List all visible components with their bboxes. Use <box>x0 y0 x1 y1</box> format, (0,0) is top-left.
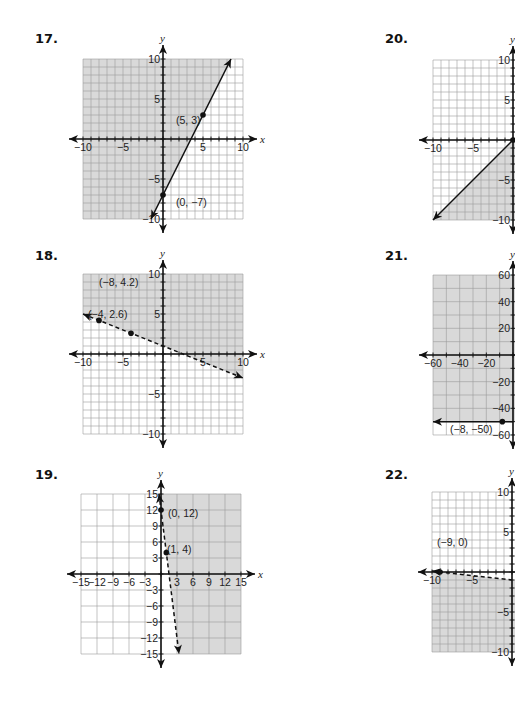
x-tick-label: 10 <box>237 356 249 368</box>
point-label: (−9, 0) <box>437 536 468 548</box>
point-label: (−8, 4.2) <box>99 276 138 288</box>
y-tick-label: 20 <box>498 322 510 334</box>
point-label: (0, 12) <box>168 507 198 519</box>
x-tick-label: −10 <box>423 574 441 586</box>
y-tick-label: −40 <box>492 402 510 414</box>
x-tick-label: 5 <box>200 141 206 153</box>
y-tick-label: 5 <box>503 526 509 538</box>
data-point <box>160 192 166 198</box>
y-tick-label: −5 <box>497 606 509 618</box>
graph-19: yx−15−12−9−6−336912151512963−3−6−9−12−15 <box>67 467 263 668</box>
graph-21: y−60−40−20604020−20−40−60 <box>0 0 515 449</box>
x-tick-label: −6 <box>123 576 135 588</box>
y-axis-label: y <box>509 248 515 260</box>
y-tick-label: 5 <box>154 308 160 320</box>
y-axis-label: y <box>157 467 163 479</box>
y-tick-label: −12 <box>140 632 158 644</box>
x-tick-label: −20 <box>477 357 495 369</box>
y-tick-label: 12 <box>146 504 158 516</box>
x-tick-label: 10 <box>237 141 249 153</box>
y-tick-label: 15 <box>146 488 158 500</box>
point-label: (5, 3) <box>176 114 201 126</box>
y-tick-label: 5 <box>154 93 160 105</box>
graphs-canvas: yx−10−5510105−5−10yx−10−5510105−5−10yx−1… <box>0 0 515 702</box>
y-tick-label: 5 <box>504 94 510 106</box>
y-axis-label: y <box>508 465 514 477</box>
data-point <box>158 507 164 513</box>
x-tick-label: −60 <box>424 357 442 369</box>
x-tick-label: −10 <box>424 142 442 154</box>
x-tick-label: 15 <box>235 576 247 588</box>
y-axis-label: y <box>509 33 515 45</box>
y-tick-label: −20 <box>492 376 510 388</box>
data-point <box>437 569 443 575</box>
y-tick-label: 10 <box>498 54 510 66</box>
y-tick-label: −15 <box>140 648 158 660</box>
data-point <box>500 419 506 425</box>
y-tick-label: 10 <box>148 268 160 280</box>
x-tick-label: −5 <box>467 142 479 154</box>
y-tick-label: 6 <box>152 536 158 548</box>
point-label: (0, −7) <box>176 196 207 208</box>
x-tick-label: −5 <box>117 356 129 368</box>
x-tick-label: −5 <box>117 141 129 153</box>
y-tick-label: 60 <box>498 269 510 281</box>
y-axis-label: y <box>159 32 165 44</box>
y-tick-label: −9 <box>146 616 158 628</box>
data-point <box>128 330 134 336</box>
x-axis-label: x <box>259 133 265 145</box>
point-label: (−4, 2.6) <box>88 308 127 320</box>
y-tick-label: 3 <box>152 552 158 564</box>
x-tick-label: 12 <box>219 576 231 588</box>
point-label: (1, 4) <box>167 543 192 555</box>
y-tick-label: −10 <box>142 428 160 440</box>
x-tick-label: 9 <box>206 576 212 588</box>
data-point <box>200 112 206 118</box>
y-tick-label: −5 <box>148 173 160 185</box>
y-tick-label: −5 <box>148 388 160 400</box>
y-tick-label: 9 <box>152 520 158 532</box>
x-axis-label: x <box>259 348 265 360</box>
y-tick-label: −3 <box>146 584 158 596</box>
y-tick-label: −10 <box>491 646 509 658</box>
y-tick-label: 10 <box>148 53 160 65</box>
x-tick-label: −9 <box>107 576 119 588</box>
x-tick-label: −10 <box>74 356 92 368</box>
x-tick-label: 3 <box>174 576 180 588</box>
x-tick-label: −10 <box>74 141 92 153</box>
x-tick-label: 6 <box>190 576 196 588</box>
y-tick-label: −10 <box>492 214 510 226</box>
point-label: (−8, −50) <box>450 423 493 435</box>
y-tick-label: 40 <box>498 296 510 308</box>
y-tick-label: −5 <box>498 174 510 186</box>
y-tick-label: −6 <box>146 600 158 612</box>
y-tick-label: 10 <box>497 486 509 498</box>
x-tick-label: −40 <box>451 357 469 369</box>
x-tick-label: −12 <box>88 576 106 588</box>
y-axis-label: y <box>159 247 165 259</box>
x-axis-label: x <box>257 568 263 580</box>
y-tick-label: −60 <box>492 429 510 441</box>
